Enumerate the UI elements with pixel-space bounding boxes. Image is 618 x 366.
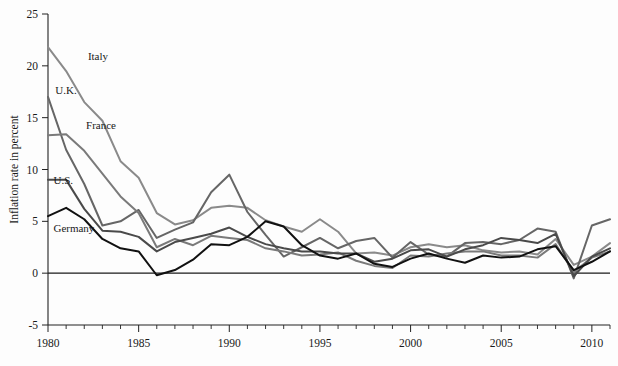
y-tick-labels: 2520151050-5 (27, 8, 39, 331)
series-label-france: France (86, 119, 116, 131)
x-tick-label: 1990 (218, 337, 241, 349)
x-tick-label: 1980 (37, 337, 60, 349)
series-line-italy (48, 47, 610, 265)
x-tick-marks (48, 325, 610, 332)
x-axis-group: 1980198519901995200020052010 (37, 325, 611, 349)
series-line-us (48, 180, 610, 276)
series-lines (48, 47, 610, 278)
x-tick-label: 1995 (308, 337, 331, 349)
x-tick-label: 1985 (127, 337, 150, 349)
series-label-us: U.S. (53, 174, 73, 186)
y-tick-label: 5 (32, 215, 38, 227)
series-label-germany: Germany (53, 222, 94, 234)
x-tick-label: 2000 (399, 337, 422, 349)
x-tick-label: 2010 (580, 337, 603, 349)
y-tick-label: 20 (27, 60, 39, 72)
x-tick-label: 2005 (490, 337, 513, 349)
inflation-line-chart: 2520151050-5 Inflation rate in percent 1… (0, 0, 618, 366)
y-axis-title: Inflation rate in percent (8, 115, 21, 224)
y-tick-label: 25 (27, 8, 39, 20)
series-label-italy: Italy (88, 50, 109, 62)
x-tick-labels: 1980198519901995200020052010 (37, 337, 604, 349)
y-tick-label: 0 (32, 267, 38, 279)
series-label-uk: U.K. (55, 84, 77, 96)
y-tick-marks (42, 14, 48, 325)
y-tick-label: 15 (27, 112, 39, 124)
chart-svg: 2520151050-5 Inflation rate in percent 1… (0, 0, 618, 366)
y-tick-label: -5 (28, 319, 38, 331)
y-tick-label: 10 (27, 164, 39, 176)
y-axis-group: 2520151050-5 Inflation rate in percent (8, 8, 48, 331)
